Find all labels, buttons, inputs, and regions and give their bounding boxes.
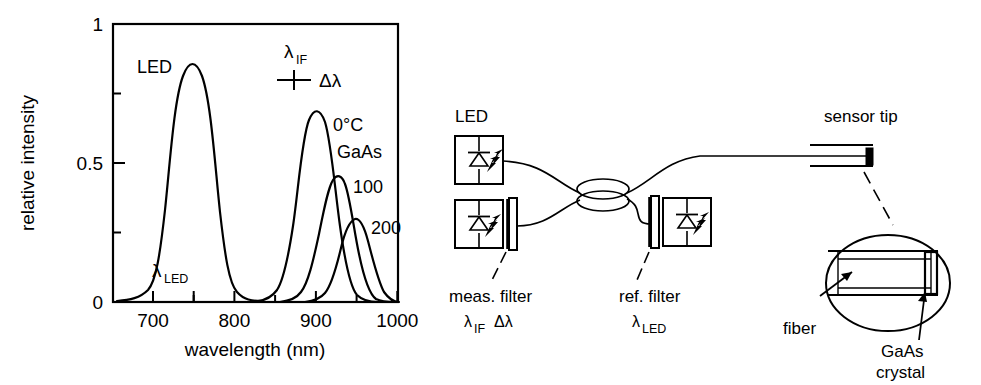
delta-lambda-label: Δλ bbox=[319, 70, 342, 91]
lambda-led-symbol: λ bbox=[152, 260, 162, 281]
coupler-ellipse-upper bbox=[577, 179, 629, 199]
spectrum-chart: 1 0.5 0 700 800 900 1000 wavelength (nm)… bbox=[17, 14, 418, 360]
temp-0c-label: 0°C bbox=[333, 115, 363, 135]
optical-setup-diagram: LED sensor tip bbox=[449, 107, 950, 382]
figure-root: 1 0.5 0 700 800 900 1000 wavelength (nm)… bbox=[0, 0, 981, 385]
fiber-pointer bbox=[820, 272, 852, 296]
fiber-network bbox=[503, 156, 812, 226]
measurement-filter-plate bbox=[508, 198, 518, 250]
magnifier-detail bbox=[820, 235, 950, 340]
ref-filter-lambda: λ bbox=[632, 313, 640, 330]
fiber-meas-to-coupler bbox=[517, 200, 580, 226]
y-tick-label-0-5: 0.5 bbox=[77, 153, 103, 174]
reference-filter-plate bbox=[650, 196, 660, 248]
meas-filter-delta-lambda: Δλ bbox=[494, 313, 513, 330]
x-tick-label-700: 700 bbox=[137, 310, 169, 331]
meas-filter-lambda: λ bbox=[464, 313, 472, 330]
photodiode-triangle-meas bbox=[470, 217, 488, 230]
x-tick-label-800: 800 bbox=[219, 310, 251, 331]
crystal-label: crystal bbox=[876, 363, 925, 382]
sensor-tip-assembly bbox=[810, 145, 873, 166]
lambda-led-annotation: λ LED bbox=[152, 260, 188, 286]
meas-detector-arrows bbox=[485, 214, 501, 237]
meas-filter-symbols: λ IF Δλ bbox=[464, 313, 513, 336]
lambda-led-subscript: LED bbox=[164, 272, 188, 286]
meas-filter-lambda-sub: IF bbox=[474, 322, 485, 336]
sensor-tip-label: sensor tip bbox=[824, 107, 898, 126]
filter-leader-lines bbox=[491, 252, 649, 282]
led-source-label: LED bbox=[455, 107, 488, 126]
coupler-ellipse-lower bbox=[577, 191, 629, 211]
led-diode-triangle bbox=[470, 153, 488, 166]
curve-gaas-0c bbox=[258, 111, 378, 302]
gaas-pointer bbox=[918, 292, 927, 340]
y-tick-label-0: 0 bbox=[92, 292, 103, 313]
sensor-tip-crystal bbox=[866, 148, 873, 165]
y-tick-label-1: 1 bbox=[92, 14, 103, 35]
gaas-crystal-label: GaAs bbox=[881, 342, 924, 361]
ref-detector-arrows bbox=[693, 212, 709, 235]
photodiode-triangle-ref bbox=[678, 215, 696, 228]
fiber-coupler-to-tip bbox=[627, 156, 812, 193]
meas-filter-label: meas. filter bbox=[449, 287, 532, 306]
figure-svg: 1 0.5 0 700 800 900 1000 wavelength (nm)… bbox=[0, 0, 981, 385]
magnifier-leader-line bbox=[864, 172, 893, 225]
lambda-if-symbol: λ bbox=[284, 41, 294, 62]
lambda-if-annotation: λ IF Δλ bbox=[277, 41, 342, 91]
meas-filter-leader bbox=[491, 252, 506, 282]
fiber-led-to-coupler bbox=[503, 161, 580, 193]
x-tick-label-900: 900 bbox=[300, 310, 332, 331]
ref-filter-symbols: λ LED bbox=[632, 313, 666, 336]
y-axis-ticks bbox=[113, 24, 125, 302]
temp-100-label: 100 bbox=[353, 177, 383, 197]
ref-filter-lambda-sub: LED bbox=[642, 322, 666, 336]
lambda-if-crosshair-marker bbox=[277, 70, 311, 90]
led-source-box bbox=[455, 136, 503, 184]
x-tick-label-1000: 1000 bbox=[376, 310, 418, 331]
gaas-material-label: GaAs bbox=[337, 142, 382, 162]
led-curve-label: LED bbox=[137, 57, 172, 77]
ref-filter-leader bbox=[637, 252, 649, 280]
curve-led bbox=[117, 64, 262, 301]
lambda-if-subscript: IF bbox=[296, 53, 307, 67]
temp-200-label: 200 bbox=[371, 218, 401, 238]
reference-detector-box bbox=[663, 198, 711, 246]
x-axis-title: wavelength (nm) bbox=[184, 339, 325, 360]
measurement-detector-box bbox=[455, 200, 503, 248]
ref-filter-label: ref. filter bbox=[619, 287, 681, 306]
fiber-coupler-to-ref bbox=[627, 199, 651, 224]
fiber-label: fiber bbox=[783, 319, 816, 338]
y-axis-title: relative intensity bbox=[17, 94, 38, 231]
